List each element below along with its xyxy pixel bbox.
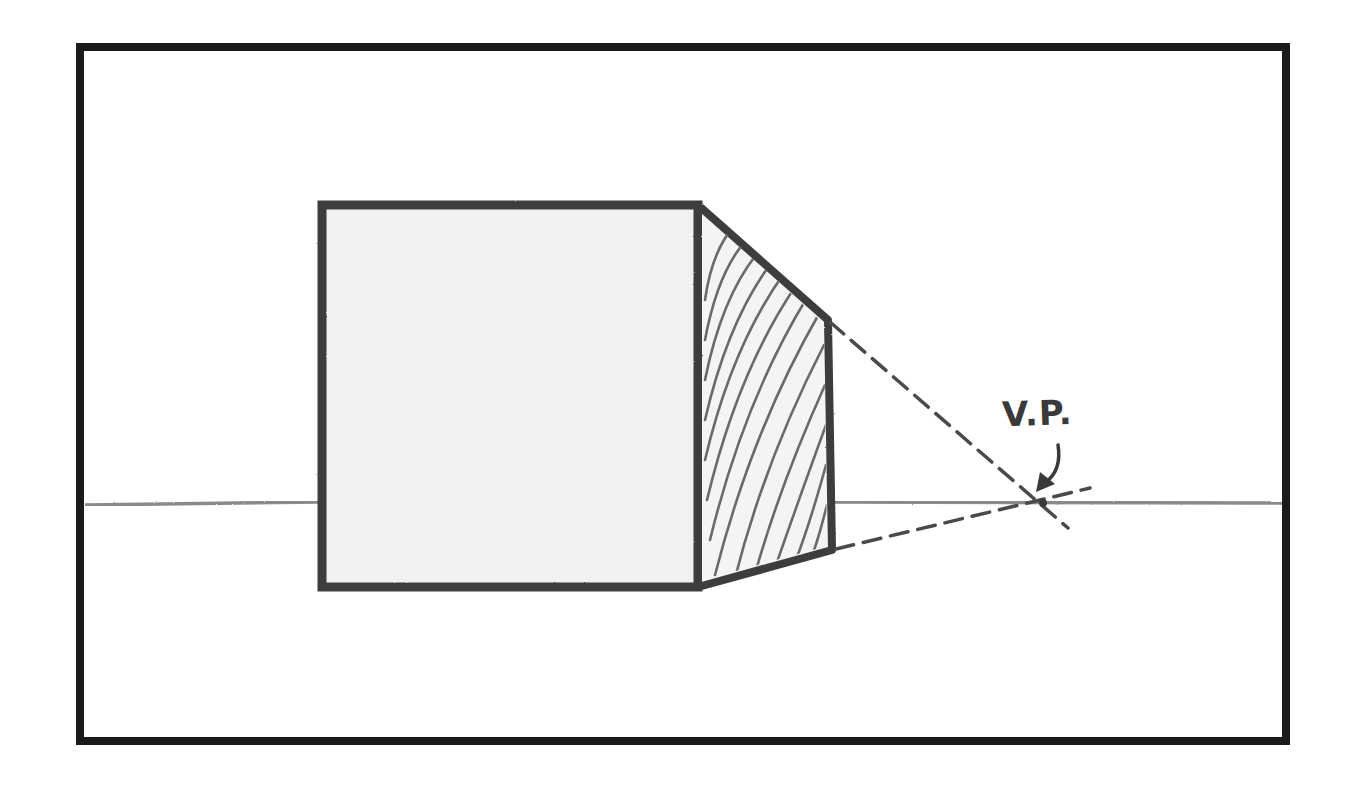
vanishing-point-label: V.P. (1001, 392, 1073, 434)
perspective-diagram (0, 0, 1365, 789)
cube-front-face (322, 205, 698, 587)
